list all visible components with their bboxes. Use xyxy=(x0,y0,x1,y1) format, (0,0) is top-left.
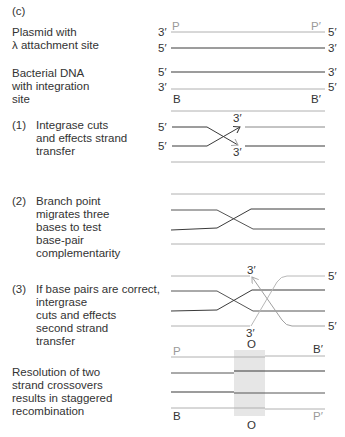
step1-diagram xyxy=(171,111,325,162)
site-p-prime-label: P′ xyxy=(311,20,321,33)
step3-arrow-top-end: 3′ xyxy=(247,264,256,277)
resolution-b-label: B xyxy=(173,410,181,423)
site-b-prime-label: B′ xyxy=(311,93,321,106)
step3-diagram xyxy=(171,276,325,326)
plasmid-bottom-left-end: 5′ xyxy=(158,42,167,55)
plasmid-dna xyxy=(171,32,325,48)
bacterial-bottom-left-end: 3′ xyxy=(158,81,167,94)
step3-core-label: O xyxy=(247,338,256,351)
step1-bottom-left-end: 5′ xyxy=(158,140,167,153)
bacterial-top-left-end: 5′ xyxy=(158,66,167,79)
core-region-shade xyxy=(234,350,265,416)
resolution-b-prime-label: B′ xyxy=(313,343,323,356)
plasmid-top-left-end: 3′ xyxy=(158,26,167,39)
resolution-p-label: P xyxy=(173,345,181,358)
resolution-diagram xyxy=(171,350,325,416)
step1-arrow-bottom-end: 3′ xyxy=(233,146,242,159)
step2-diagram xyxy=(171,194,325,244)
plasmid-bottom-right-end: 3′ xyxy=(328,42,337,55)
site-b-label: B xyxy=(173,93,181,106)
recombination-diagram xyxy=(0,0,345,437)
site-p-label: P xyxy=(172,20,180,33)
resolution-p-prime-label: P′ xyxy=(313,410,323,423)
step3-right-bottom-end: 5′ xyxy=(328,320,337,333)
step3-right-top-end: 5′ xyxy=(328,270,337,283)
step1-top-left-end: 5′ xyxy=(158,121,167,134)
bacterial-top-right-end: 3′ xyxy=(328,66,337,79)
bacterial-dna xyxy=(171,72,325,89)
plasmid-top-right-end: 5′ xyxy=(328,26,337,39)
step1-arrow-top-end: 3′ xyxy=(233,112,242,125)
bacterial-bottom-right-end: 5′ xyxy=(328,81,337,94)
resolution-core-label: O xyxy=(247,419,256,432)
